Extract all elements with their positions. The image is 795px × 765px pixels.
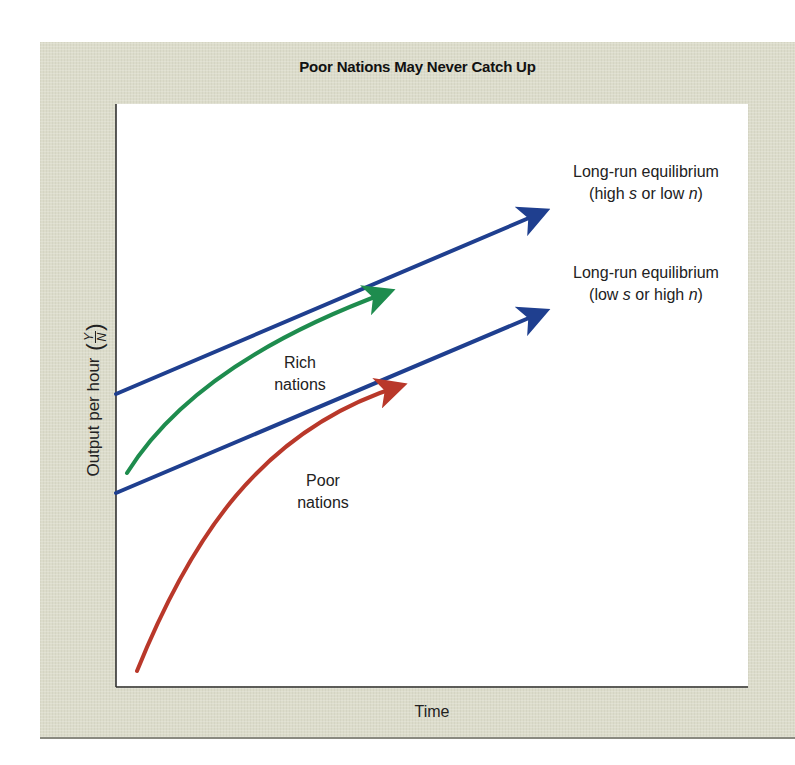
y-axis-fraction: ( Y N ) xyxy=(82,323,108,350)
equilibrium-low-line xyxy=(116,312,543,493)
text: ) xyxy=(698,286,703,303)
rich-line1: Rich xyxy=(260,352,340,374)
annotation-low-line2: (low s or high n) xyxy=(558,284,734,306)
annotation-high-equilibrium: Long-run equilibrium (high s or low n) xyxy=(558,161,734,205)
text: (high xyxy=(589,185,629,202)
poor-line2: nations xyxy=(283,492,363,514)
text: or high xyxy=(631,286,689,303)
var-s: s xyxy=(623,286,631,303)
y-axis-label: Output per hour ( Y N ) xyxy=(82,300,110,500)
var-n: n xyxy=(689,286,698,303)
fraction-numerator: Y xyxy=(83,331,96,344)
text: or low xyxy=(637,185,689,202)
annotation-low-line1: Long-run equilibrium xyxy=(558,262,734,284)
var-s: s xyxy=(629,185,637,202)
annotation-high-line2: (high s or low n) xyxy=(558,183,734,205)
var-n: n xyxy=(689,185,698,202)
text: ) xyxy=(698,185,703,202)
y-axis-label-text: Output per hour xyxy=(84,358,103,477)
rich-line2: nations xyxy=(260,374,340,396)
x-axis-label: Time xyxy=(116,703,748,721)
poor-line1: Poor xyxy=(283,470,363,492)
rich-nations-curve xyxy=(127,292,388,473)
chart-canvas xyxy=(0,0,795,765)
text: (low xyxy=(589,286,623,303)
annotation-high-line1: Long-run equilibrium xyxy=(558,161,734,183)
fraction-denominator: N xyxy=(96,331,108,344)
annotation-low-equilibrium: Long-run equilibrium (low s or high n) xyxy=(558,262,734,306)
annotation-rich-nations: Rich nations xyxy=(260,352,340,396)
annotation-poor-nations: Poor nations xyxy=(283,470,363,514)
